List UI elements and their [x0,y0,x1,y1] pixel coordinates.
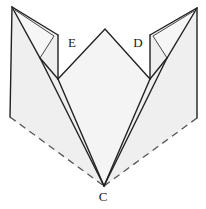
figure-canvas: E D C [0,0,206,209]
label-C: C [99,189,108,204]
label-E: E [68,35,76,50]
label-D: D [133,35,142,50]
origami-figure: E D C [0,0,206,209]
filled-panels [10,7,197,186]
